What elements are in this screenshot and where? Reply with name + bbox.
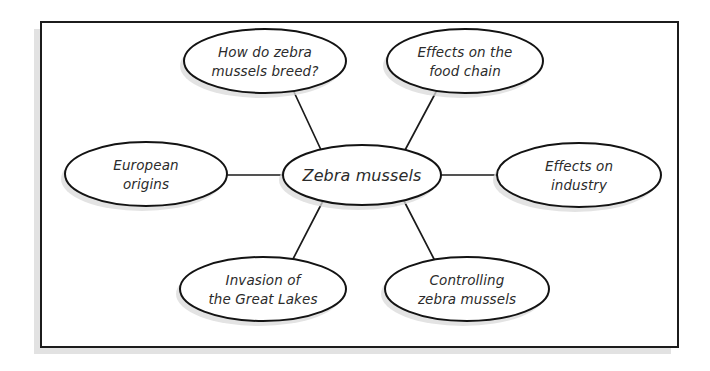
node-label-line1: Controlling bbox=[430, 272, 505, 288]
node-outline bbox=[65, 142, 227, 206]
node-label-line2: origins bbox=[123, 176, 169, 192]
node-label-line1: Effects on the bbox=[417, 44, 512, 60]
node-label-line2: zebra mussels bbox=[417, 291, 516, 307]
node-label-line1: European bbox=[113, 157, 178, 173]
node-outline bbox=[387, 29, 543, 93]
node-label-line2: mussels breed? bbox=[211, 63, 318, 79]
node-outline bbox=[184, 29, 346, 93]
mind-map-page: How do zebra mussels breed? Effects on t… bbox=[0, 0, 710, 371]
node-label-line1: Effects on bbox=[545, 158, 613, 174]
node-label-line1: Invasion of bbox=[226, 272, 303, 288]
node-label-line2: industry bbox=[551, 177, 608, 193]
node-outline bbox=[385, 257, 549, 321]
node-label-line2: the Great Lakes bbox=[208, 291, 317, 307]
node-label-line1: How do zebra bbox=[218, 44, 312, 60]
mind-map-diagram: How do zebra mussels breed? Effects on t… bbox=[0, 0, 710, 371]
node-outline bbox=[180, 257, 346, 321]
center-node-label: Zebra mussels bbox=[302, 166, 422, 185]
node-outline bbox=[497, 143, 661, 207]
node-label-line2: food chain bbox=[429, 63, 501, 79]
